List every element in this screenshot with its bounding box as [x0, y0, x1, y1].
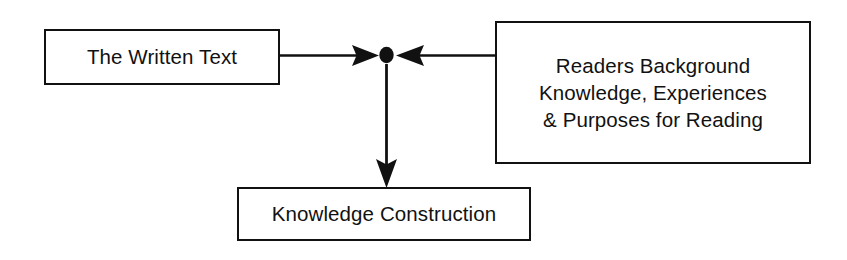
node-readers-background: Readers Background Knowledge, Experience…: [495, 21, 811, 164]
edge-readers-background-to-interaction: [396, 45, 495, 66]
interaction-point-dot: [379, 47, 393, 63]
edge-interaction-to-knowledge-construction: [376, 64, 397, 188]
edge-written-text-to-interaction: [280, 45, 379, 66]
node-knowledge-construction: Knowledge Construction: [237, 187, 531, 241]
node-written-text-label: The Written Text: [87, 43, 237, 70]
node-readers-background-label: Readers Background Knowledge, Experience…: [539, 52, 767, 133]
node-written-text: The Written Text: [44, 29, 280, 85]
node-knowledge-construction-label: Knowledge Construction: [272, 200, 496, 227]
diagram-canvas: The Written Text Readers Background Know…: [0, 0, 847, 260]
